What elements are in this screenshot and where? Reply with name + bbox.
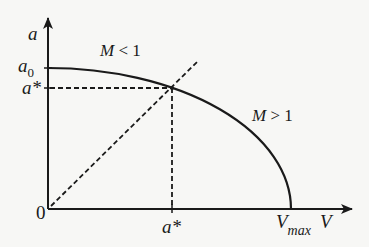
- supersonic-M: M: [252, 106, 266, 125]
- vmax-sub: max: [288, 223, 311, 238]
- supersonic-region-label: M > 1: [252, 107, 293, 124]
- a-star-y-label: a*: [22, 78, 41, 97]
- a-star-x-label: a*: [162, 217, 181, 236]
- a-star-y-text: a*: [22, 77, 41, 98]
- subsonic-region-label: M < 1: [100, 42, 141, 59]
- origin-text: 0: [36, 202, 46, 223]
- critical-point: [170, 86, 174, 90]
- vmax-main: V: [276, 211, 288, 232]
- y-axis-label: a: [28, 24, 38, 43]
- subsonic-M: M: [100, 41, 114, 60]
- a0-label: a0: [18, 56, 34, 75]
- sonic-line: [51, 62, 197, 206]
- origin-label: 0: [36, 203, 46, 222]
- a0-main: a: [18, 55, 28, 76]
- x-axis-label-text: V: [320, 211, 332, 232]
- supersonic-op: > 1: [270, 106, 292, 125]
- diagram-canvas: [0, 0, 369, 247]
- energy-ellipse-curve: [48, 68, 291, 209]
- vmax-label: Vmax: [276, 212, 311, 231]
- a-star-x-text: a*: [162, 216, 181, 237]
- subsonic-op: < 1: [118, 41, 140, 60]
- x-axis-label: V: [320, 212, 332, 231]
- y-axis-label-text: a: [28, 23, 38, 44]
